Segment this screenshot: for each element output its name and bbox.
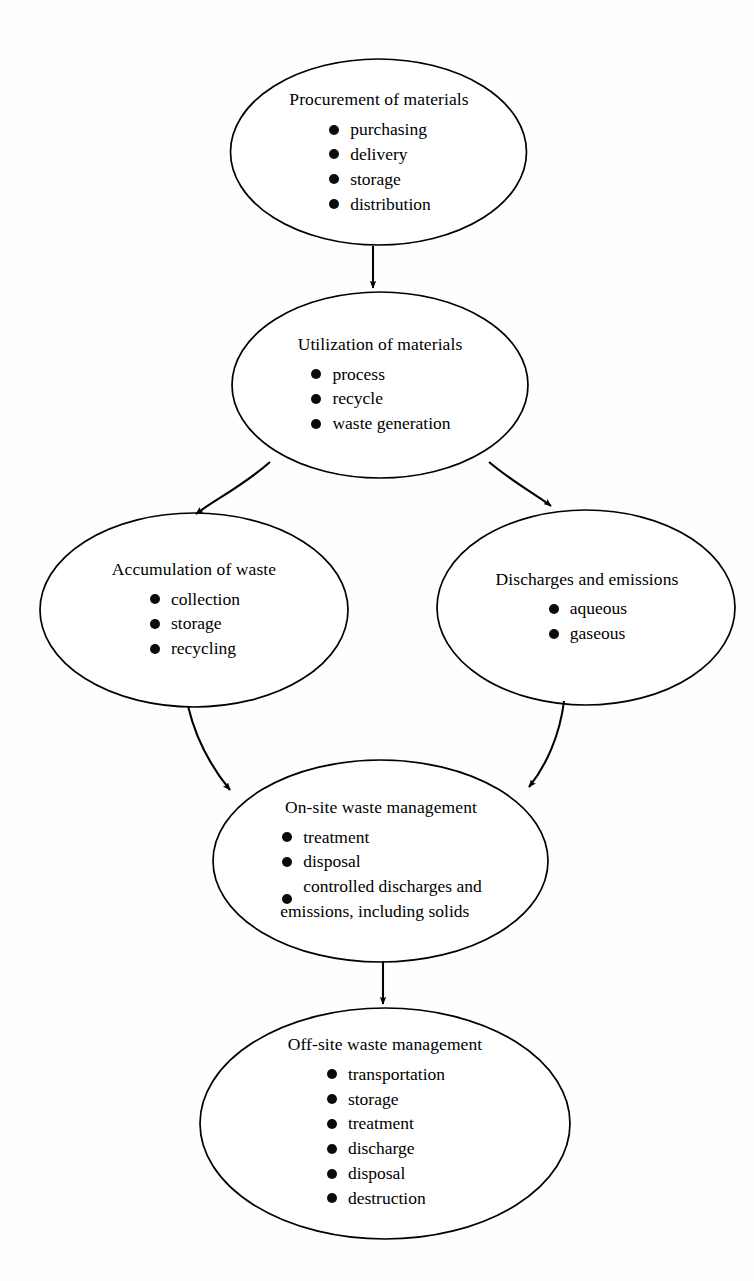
bullet-dot-icon [311, 419, 321, 429]
bullet-dot-icon [327, 1144, 337, 1154]
bullet-label: storage [348, 1089, 399, 1109]
node-title-utilization: Utilization of materials [298, 334, 463, 355]
bullet-dot-icon [549, 604, 559, 614]
list-item: storage [148, 611, 240, 636]
bullet-dot-icon [327, 1094, 337, 1104]
list-item: delivery [327, 142, 431, 167]
bullet-label: distribution [350, 194, 431, 214]
list-item: disposal [280, 849, 482, 874]
bullet-label: disposal [348, 1163, 405, 1183]
list-item: storage [327, 167, 431, 192]
bullet-label: collection [171, 589, 240, 609]
diagram-canvas: Procurement of materials purchasing deli… [0, 0, 754, 1281]
bullet-label: aqueous [570, 598, 627, 618]
node-offsite[interactable]: Off-site waste management transportation… [210, 1020, 560, 1225]
bullet-dot-icon [549, 629, 559, 639]
bullet-dot-icon [150, 644, 160, 654]
list-item: waste generation [309, 411, 450, 436]
node-procurement[interactable]: Procurement of materials purchasing deli… [238, 78, 520, 228]
bullet-label: treatment [303, 827, 369, 847]
bullet-label: recycling [171, 638, 236, 658]
bullet-dot-icon [329, 149, 339, 159]
list-item: process [309, 362, 450, 387]
node-title-accumulation: Accumulation of waste [112, 559, 276, 580]
bullet-dot-icon [327, 1193, 337, 1203]
bullet-label: process [332, 364, 384, 384]
bullet-label: storage [350, 169, 401, 189]
list-item: transportation [325, 1062, 445, 1087]
bullet-dot-icon [329, 199, 339, 209]
node-onsite[interactable]: On-site waste management treatment dispo… [222, 778, 540, 943]
list-item: treatment [280, 825, 482, 850]
list-item: recycling [148, 636, 240, 661]
list-item: purchasing [327, 117, 431, 142]
bullet-dot-icon [327, 1119, 337, 1129]
bullet-dot-icon [282, 857, 292, 867]
bullet-dot-icon [311, 394, 321, 404]
bullet-dot-icon [150, 619, 160, 629]
node-utilization[interactable]: Utilization of materials process recycle… [240, 310, 520, 460]
list-item: disposal [325, 1161, 445, 1186]
bullet-label: delivery [350, 144, 407, 164]
list-item: controlled discharges andemissions, incl… [280, 874, 482, 924]
bullet-label: transportation [348, 1064, 445, 1084]
bullet-list-onsite: treatment disposal controlled discharges… [280, 825, 482, 924]
bullet-label-continuation: emissions, including solids [280, 899, 482, 924]
node-title-discharges: Discharges and emissions [496, 569, 679, 590]
node-title-offsite: Off-site waste management [288, 1034, 483, 1055]
bullet-dot-icon [150, 594, 160, 604]
bullet-label: destruction [348, 1188, 426, 1208]
list-item: storage [325, 1087, 445, 1112]
bullet-list-discharges: aqueous gaseous [547, 596, 627, 646]
node-accumulation[interactable]: Accumulation of waste collection storage… [52, 535, 336, 685]
bullet-label: controlled discharges and [303, 876, 482, 896]
bullet-label: discharge [348, 1138, 415, 1158]
bullet-dot-icon [311, 369, 321, 379]
list-item: collection [148, 587, 240, 612]
list-item: aqueous [547, 596, 627, 621]
node-title-onsite: On-site waste management [285, 797, 477, 818]
bullet-list-procurement: purchasing delivery storage distribution [327, 117, 431, 216]
bullet-dot-icon [329, 174, 339, 184]
bullet-dot-icon [282, 894, 292, 904]
list-item: distribution [327, 192, 431, 217]
edge-utilization-to-accumulation [196, 462, 270, 514]
list-item: treatment [325, 1111, 445, 1136]
bullet-dot-icon [327, 1069, 337, 1079]
bullet-label: recycle [332, 388, 383, 408]
bullet-label: purchasing [350, 119, 427, 139]
node-title-procurement: Procurement of materials [289, 89, 468, 110]
bullet-label: disposal [303, 851, 360, 871]
node-discharges[interactable]: Discharges and emissions aqueous gaseous [449, 545, 725, 670]
bullet-list-offsite: transportation storage treatment dischar… [325, 1062, 445, 1211]
bullet-list-accumulation: collection storage recycling [148, 587, 240, 662]
edge-utilization-to-discharges [489, 462, 551, 506]
bullet-label: storage [171, 613, 222, 633]
bullet-dot-icon [327, 1169, 337, 1179]
edge-discharges-to-onsite [529, 701, 564, 787]
bullet-label: gaseous [570, 623, 625, 643]
list-item: recycle [309, 386, 450, 411]
bullet-dot-icon [329, 125, 339, 135]
list-item: destruction [325, 1186, 445, 1211]
list-item: discharge [325, 1136, 445, 1161]
bullet-label: treatment [348, 1113, 414, 1133]
bullet-dot-icon [282, 832, 292, 842]
list-item: gaseous [547, 621, 627, 646]
bullet-label: waste generation [332, 413, 450, 433]
bullet-list-utilization: process recycle waste generation [309, 362, 450, 437]
